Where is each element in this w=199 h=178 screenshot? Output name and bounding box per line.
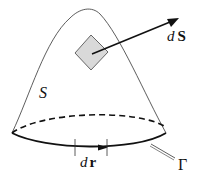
surface-outline bbox=[12, 9, 166, 133]
label-surface-S: S bbox=[39, 84, 47, 101]
stokes-diagram: dS S dr Γ bbox=[0, 0, 199, 178]
boundary-curve bbox=[12, 133, 166, 147]
base-back-dashed bbox=[12, 115, 166, 133]
normal-vector bbox=[92, 22, 170, 54]
label-dr: dr bbox=[80, 154, 97, 170]
label-gamma: Γ bbox=[178, 156, 187, 173]
normal-arrow-icon bbox=[167, 18, 179, 27]
gamma-leader bbox=[151, 144, 175, 158]
label-dS: dS bbox=[167, 28, 186, 44]
gamma-leader-2 bbox=[150, 146, 174, 160]
area-patch bbox=[75, 35, 108, 70]
